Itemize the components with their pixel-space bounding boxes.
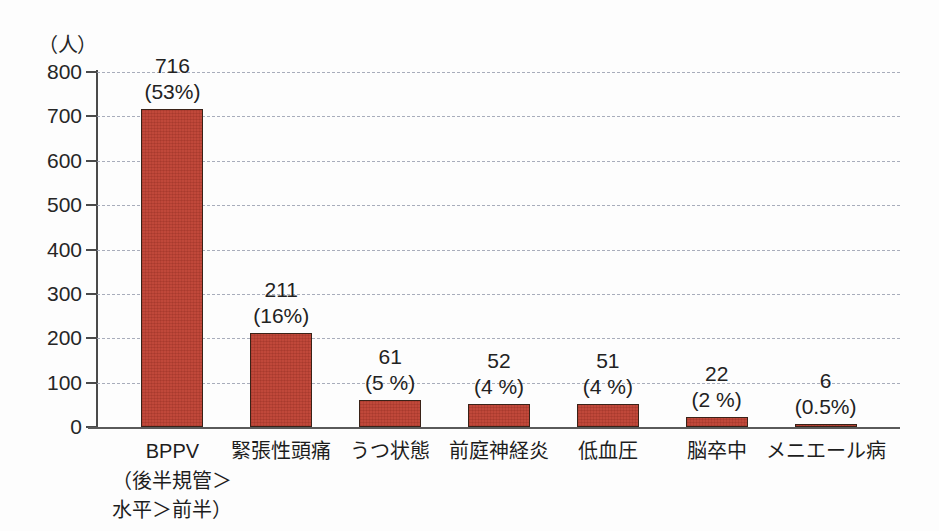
y-axis-tick-label: 300 — [22, 282, 82, 306]
bar-value-number: 6 — [795, 368, 857, 394]
bar — [141, 109, 203, 427]
y-axis-tick-label: 800 — [22, 60, 82, 84]
bar — [468, 404, 530, 427]
x-axis-category-label: 前庭神経炎 — [449, 437, 549, 466]
y-axis-tick-label: 500 — [22, 193, 82, 217]
y-axis-tick-label: 0 — [22, 415, 82, 439]
x-axis-line — [88, 427, 900, 429]
bar-value-percent: (16%) — [253, 303, 309, 329]
x-axis-category-label: BPPV — [146, 437, 199, 466]
x-axis-category-sublabel-line: 水平＞前半） — [112, 496, 232, 525]
y-axis-tick-label: 200 — [22, 326, 82, 350]
y-axis-tick-label: 600 — [22, 149, 82, 173]
x-axis-category-text: うつ状態 — [350, 437, 430, 466]
bar-value-percent: (4 %) — [474, 374, 524, 400]
x-axis-category-text: 前庭神経炎 — [449, 437, 549, 466]
bar-value-number: 61 — [365, 344, 415, 370]
x-axis-category-text: 低血圧 — [578, 437, 638, 466]
bar-value-number: 51 — [583, 348, 633, 374]
y-axis-tick-label: 400 — [22, 238, 82, 262]
gridline — [97, 161, 900, 162]
bar-value-percent: (4 %) — [583, 374, 633, 400]
bar-value-percent: (53%) — [144, 79, 200, 105]
bar-value-label: 716(53%) — [144, 53, 200, 104]
bar-value-label: 211(16%) — [253, 277, 309, 328]
bar — [359, 400, 421, 427]
bar-value-number: 52 — [474, 348, 524, 374]
bar-value-label: 51(4 %) — [583, 348, 633, 399]
bar-value-number: 716 — [144, 53, 200, 79]
bar-value-label: 6(0.5%) — [795, 368, 857, 419]
x-axis-category-sublabel: （後半規管＞水平＞前半） — [112, 467, 232, 525]
y-axis-tick-label: 100 — [22, 371, 82, 395]
x-axis-category-label: 脳卒中 — [687, 437, 747, 466]
gridline — [97, 338, 900, 339]
bar — [577, 404, 639, 427]
bar-value-label: 22(2 %) — [692, 361, 742, 412]
bar — [686, 417, 748, 427]
gridline — [97, 116, 900, 117]
x-axis-category-label: 緊張性頭痛 — [231, 437, 331, 466]
bar-value-percent: (0.5%) — [795, 394, 857, 420]
gridline — [97, 294, 900, 295]
bar-value-label: 52(4 %) — [474, 348, 524, 399]
y-axis-unit-label: （人） — [38, 29, 97, 58]
x-axis-category-label: メニエール病 — [766, 437, 886, 466]
bar — [250, 333, 312, 427]
gridline — [97, 205, 900, 206]
x-axis-category-label: うつ状態 — [350, 437, 430, 466]
x-axis-category-text: BPPV — [146, 437, 199, 466]
bar-value-number: 22 — [692, 361, 742, 387]
x-axis-category-label: 低血圧 — [578, 437, 638, 466]
x-axis-category-sublabel-line: （後半規管＞ — [112, 467, 232, 496]
gridline — [97, 72, 900, 73]
bar-value-number: 211 — [253, 277, 309, 303]
bar-chart: （人） 8007006005004003002001000 716(53%)21… — [0, 0, 939, 531]
x-axis-category-text: 脳卒中 — [687, 437, 747, 466]
bar-value-percent: (5 %) — [365, 370, 415, 396]
x-axis-category-text: メニエール病 — [766, 437, 886, 466]
y-axis-tick-label: 700 — [22, 104, 82, 128]
bar-value-label: 61(5 %) — [365, 344, 415, 395]
bar — [795, 424, 857, 427]
x-axis-category-text: 緊張性頭痛 — [231, 437, 331, 466]
gridline — [97, 250, 900, 251]
bar-value-percent: (2 %) — [692, 387, 742, 413]
